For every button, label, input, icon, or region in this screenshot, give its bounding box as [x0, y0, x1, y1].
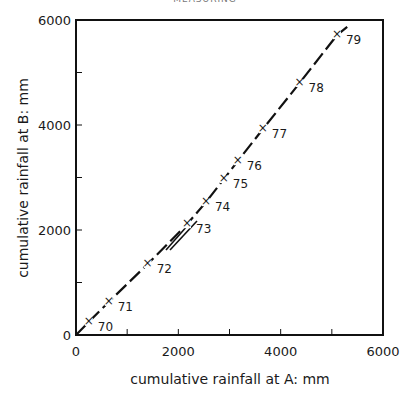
x-axis-title: cumulative rainfall at A: mm	[130, 371, 329, 387]
svg-text:×: ×	[258, 121, 268, 135]
svg-text:×: ×	[182, 216, 192, 230]
svg-text:×: ×	[332, 27, 342, 41]
point-label: 74	[215, 200, 230, 214]
svg-text:×: ×	[295, 75, 305, 89]
data-point: ×78	[295, 75, 324, 95]
y-tick-label: 2000	[38, 223, 71, 238]
point-label: 73	[196, 222, 211, 236]
x-tick-label: 6000	[366, 344, 399, 359]
x-tick-label: 0	[72, 344, 80, 359]
point-label: 77	[272, 127, 287, 141]
point-label: 70	[98, 320, 113, 334]
y-axis-title: cumulative rainfall at B: mm	[15, 78, 31, 278]
y-tick-label: 6000	[38, 13, 71, 28]
data-point: ×74	[201, 194, 230, 214]
data-point: ×77	[258, 121, 287, 141]
data-point: ×79	[332, 27, 361, 47]
y-tick-label: 4000	[38, 118, 71, 133]
svg-text:×: ×	[143, 256, 153, 270]
point-label: 72	[157, 262, 172, 276]
point-label: 76	[247, 159, 262, 173]
point-label: 78	[309, 81, 324, 95]
data-point: ×72	[143, 256, 172, 276]
double-mass-chart: 02000400060000200040006000 ×70×71×72×73×…	[0, 0, 405, 393]
svg-text:×: ×	[233, 153, 243, 167]
svg-text:×: ×	[201, 194, 211, 208]
x-tick-label: 4000	[264, 344, 297, 359]
svg-text:×: ×	[104, 294, 114, 308]
data-point: ×75	[219, 171, 248, 191]
data-line	[76, 27, 347, 335]
data-point: ×70	[84, 314, 113, 334]
x-tick-label: 2000	[162, 344, 195, 359]
point-label: 71	[118, 300, 133, 314]
data-point: ×71	[104, 294, 133, 314]
svg-text:×: ×	[219, 171, 229, 185]
y-tick-label: 0	[63, 328, 71, 343]
svg-text:×: ×	[84, 314, 94, 328]
data-points: ×70×71×72×73×74×75×76×77×78×79	[84, 27, 361, 334]
point-label: 75	[233, 177, 248, 191]
point-label: 79	[346, 33, 361, 47]
data-point: ×76	[233, 153, 262, 173]
tick-labels: 02000400060000200040006000	[38, 13, 400, 359]
